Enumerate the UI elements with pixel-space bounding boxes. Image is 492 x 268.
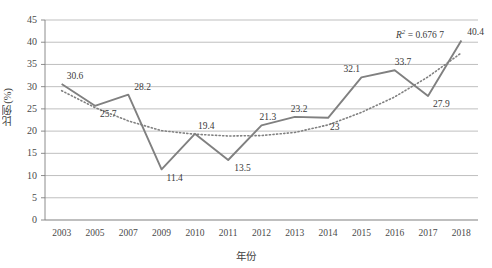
y-tick-label: 10 <box>11 171 37 181</box>
data-point-label: 28.2 <box>134 82 151 92</box>
y-tick-label: 25 <box>11 104 37 114</box>
data-point-label: 23.2 <box>291 104 308 114</box>
data-point-label: 27.9 <box>433 99 450 109</box>
x-tick-label: 2009 <box>145 228 179 238</box>
y-tick-label: 30 <box>11 82 37 92</box>
data-point-label: 30.6 <box>67 71 84 81</box>
x-tick-label: 2003 <box>45 228 79 238</box>
data-point-label: 21.3 <box>260 112 277 122</box>
y-tick-label: 45 <box>11 15 37 25</box>
data-point-label: 23 <box>330 122 340 132</box>
x-tick-label: 2011 <box>211 228 245 238</box>
data-point-label: 32.1 <box>343 64 360 74</box>
x-tick-label: 2012 <box>245 228 279 238</box>
data-point-label: 33.7 <box>395 57 412 67</box>
r-squared-value: = 0.676 7 <box>405 30 444 40</box>
x-tick-label: 2007 <box>111 228 145 238</box>
x-tick-label: 2016 <box>378 228 412 238</box>
x-tick-label: 2017 <box>411 228 445 238</box>
data-point-label: 13.5 <box>234 163 251 173</box>
y-tick-label: 20 <box>11 126 37 136</box>
x-tick-label: 2014 <box>311 228 345 238</box>
data-point-label: 25.7 <box>100 109 117 119</box>
x-tick-label: 2018 <box>444 228 478 238</box>
chart-container: 比例(%) 年份 051015202530354045 200320052007… <box>0 0 492 268</box>
r-squared-annotation: R2 = 0.676 7 <box>396 27 444 40</box>
x-tick-label: 2010 <box>178 228 212 238</box>
y-tick-label: 15 <box>11 148 37 158</box>
x-tick-label: 2015 <box>344 228 378 238</box>
x-tick-label: 2013 <box>278 228 312 238</box>
x-axis-title: 年份 <box>0 248 492 263</box>
y-tick-label: 5 <box>11 193 37 203</box>
data-point-label: 11.4 <box>167 173 183 183</box>
y-tick-label: 40 <box>11 37 37 47</box>
y-tick-label: 35 <box>11 59 37 69</box>
data-point-label: 40.4 <box>467 27 484 37</box>
x-tick-label: 2005 <box>78 228 112 238</box>
y-tick-label: 0 <box>11 215 37 225</box>
data-point-label: 19.4 <box>198 121 215 131</box>
